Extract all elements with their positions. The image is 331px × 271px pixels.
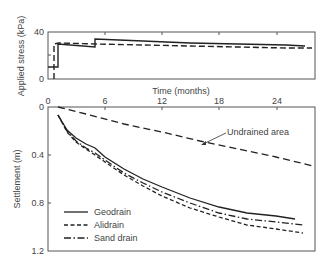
legend-sand-drain-label: Sand drain (94, 233, 138, 243)
settlement-ticks (48, 107, 277, 203)
settlement-ylabel: Settlement (m) (12, 149, 22, 208)
x-axis-label: Time (months) (152, 86, 210, 96)
legend: Geodrain Alidrain Sand drain (64, 207, 138, 243)
ytick-1-2: 1.2 (31, 246, 44, 256)
xtick-12: 12 (157, 96, 167, 106)
annotation-leader (203, 133, 226, 144)
legend-geodrain-label: Geodrain (94, 207, 131, 217)
stress-dashed-line (54, 43, 312, 79)
legend-alidrain-label: Alidrain (94, 220, 124, 230)
xtick-18: 18 (214, 96, 224, 106)
stress-ytick-40: 40 (34, 27, 44, 37)
stress-plot-frame (48, 32, 315, 79)
settlement-chart: 40 0 Applied stress (kPa) Time (months) … (0, 0, 331, 271)
stress-panel: 40 0 Applied stress (kPa) Time (months) (16, 16, 315, 97)
undrained-area-annotation: Undrained area (227, 127, 289, 137)
settlement-panel: 0 6 12 18 24 0 0.4 0.8 1.2 Settlement (m… (12, 96, 315, 256)
stress-ylabel: Applied stress (kPa) (16, 16, 26, 97)
ytick-0: 0 (39, 102, 44, 112)
xtick-24: 24 (272, 96, 282, 106)
ytick-0-8: 0.8 (31, 198, 44, 208)
xtick-6: 6 (102, 96, 107, 106)
ytick-0-4: 0.4 (31, 150, 44, 160)
stress-ytick-0: 0 (39, 74, 44, 84)
xtick-0: 0 (45, 96, 50, 106)
